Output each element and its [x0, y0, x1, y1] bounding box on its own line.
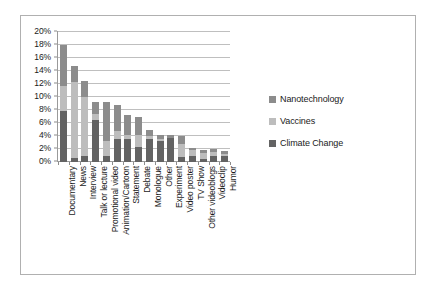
y-axis-tick-label: 16% — [34, 52, 51, 62]
bar-column — [157, 135, 164, 162]
x-axis-tick-label: Other — [164, 166, 174, 187]
bar-segment — [92, 120, 99, 162]
bar-segment — [71, 66, 78, 82]
x-axis-tick-label: Documentary — [67, 166, 77, 215]
bar-column — [146, 130, 153, 163]
x-axis-tick-label: Experiment — [174, 166, 184, 208]
legend-swatch-icon — [269, 118, 276, 125]
bar-segment — [178, 144, 185, 158]
x-axis-tick-label: TV Show — [196, 166, 206, 200]
x-axis-tickmark — [90, 162, 91, 165]
bar-segment — [103, 141, 110, 156]
legend-item[interactable]: Vaccines — [269, 116, 409, 126]
y-axis-tick-label: 12% — [34, 78, 51, 88]
bar-segment — [200, 150, 207, 153]
y-axis-tick-label: 8% — [39, 104, 51, 114]
bar-segment — [71, 82, 78, 158]
x-axis-tick-label: Talk or lecture — [99, 166, 109, 217]
x-axis-tickmark — [155, 162, 156, 165]
legend-swatch-icon — [269, 140, 276, 147]
legend-swatch-icon — [269, 96, 276, 103]
bar-column — [210, 149, 217, 162]
x-axis-tickmark — [198, 162, 199, 165]
x-axis-tick-label: Humor — [228, 166, 238, 191]
bar-column — [124, 115, 131, 162]
bar-segment — [210, 152, 217, 156]
bar-segment — [146, 130, 153, 137]
x-axis-tickmark — [123, 162, 124, 165]
legend-label: Climate Change — [280, 138, 343, 148]
bar-segment — [92, 114, 99, 121]
bar-segment — [124, 115, 131, 136]
x-axis-tickmark — [219, 162, 220, 165]
bar-column — [60, 45, 67, 162]
bar-segment — [167, 135, 174, 138]
bar-segment — [178, 136, 185, 144]
legend-label: Vaccines — [280, 116, 315, 126]
x-axis-tickmark — [230, 162, 231, 165]
bar-segment — [114, 139, 121, 162]
bar-segment — [60, 45, 67, 86]
bar-segment — [114, 105, 121, 131]
x-axis-tick-label: Other videoblogs — [207, 166, 217, 229]
bar-column — [81, 81, 88, 162]
x-axis-tick-label: Promotional video — [110, 166, 120, 232]
x-axis-tick-label: Monologue — [153, 166, 163, 207]
bar-segment — [221, 154, 228, 156]
bar-segment — [135, 135, 142, 147]
bar-segment — [60, 111, 67, 162]
chart-frame: 20%18%16%14%12%10%8%6%4%2%0% Documentary… — [20, 15, 416, 275]
bar-column — [71, 66, 78, 162]
y-axis-tick-label: 20% — [34, 26, 51, 36]
bar-segment — [124, 135, 131, 139]
bar-segment — [200, 153, 207, 160]
y-axis-labels: 20%18%16%14%12%10%8%6%4%2%0% — [21, 16, 55, 176]
x-axis-tickmark — [112, 162, 113, 165]
y-axis-tick-label: 18% — [34, 39, 51, 49]
bar-segment — [167, 138, 174, 162]
x-axis-tickmark — [69, 162, 70, 165]
bar-column — [103, 102, 110, 162]
chart-legend: NanotechnologyVaccinesClimate Change — [269, 94, 409, 160]
bar-series-group — [58, 31, 230, 162]
x-axis-tickmark — [101, 162, 102, 165]
x-axis-tick-label: Debate — [142, 166, 152, 193]
bar-segment — [114, 131, 121, 138]
bar-segment — [221, 151, 228, 154]
y-axis-tick-label: 2% — [39, 143, 51, 153]
bar-segment — [81, 97, 88, 156]
y-axis-tick-label: 0% — [39, 156, 51, 166]
bar-column — [167, 135, 174, 162]
bar-segment — [135, 147, 142, 162]
bar-segment — [157, 139, 164, 142]
x-axis-tickmark — [58, 162, 59, 165]
bar-column — [135, 117, 142, 163]
bar-segment — [146, 136, 153, 139]
bar-segment — [135, 117, 142, 135]
x-axis-tickmark — [144, 162, 145, 165]
x-axis-tick-label: Videoclip — [217, 166, 227, 199]
bar-segment — [157, 135, 164, 138]
bar-segment — [157, 141, 164, 162]
legend-item[interactable]: Climate Change — [269, 138, 409, 148]
bar-segment — [124, 139, 131, 162]
x-axis-tick-label: Animation/Cartoon — [121, 166, 131, 235]
x-axis-tick-label: Statement — [131, 166, 141, 204]
y-axis-tick-label: 4% — [39, 130, 51, 140]
bar-column — [200, 150, 207, 162]
x-axis-tick-label: Video poster — [185, 166, 195, 212]
y-axis-tick-label: 6% — [39, 117, 51, 127]
bar-segment — [146, 139, 153, 162]
bar-segment — [81, 81, 88, 97]
bar-segment — [92, 102, 99, 114]
x-axis-labels: DocumentaryNewsInterviewTalk or lectureP… — [58, 166, 238, 271]
x-axis-tickmark — [176, 162, 177, 165]
bar-segment — [103, 102, 110, 140]
legend-item[interactable]: Nanotechnology — [269, 94, 409, 104]
bar-segment — [189, 148, 196, 151]
bar-column — [114, 105, 121, 162]
x-axis-tickmark — [187, 162, 188, 165]
bar-segment — [189, 150, 196, 155]
legend-label: Nanotechnology — [280, 94, 344, 104]
bar-column — [178, 136, 185, 162]
